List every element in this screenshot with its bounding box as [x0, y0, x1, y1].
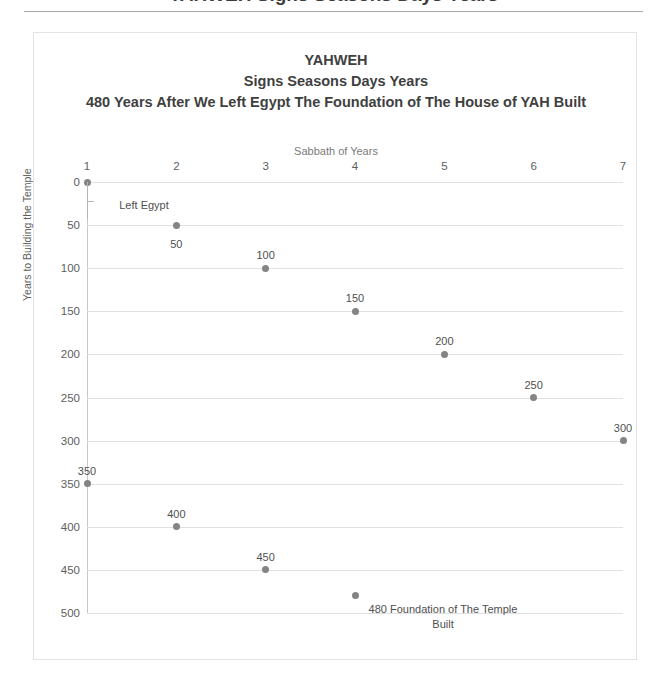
y-tick-label: 250: [61, 392, 80, 404]
x-tick-label: 2: [173, 160, 179, 172]
data-point[interactable]: [84, 480, 91, 487]
gridline: [87, 527, 623, 528]
y-tick-label: 50: [67, 219, 80, 231]
data-point[interactable]: [352, 592, 359, 599]
data-point-label: 200: [435, 335, 453, 347]
x-tick-label: 3: [262, 160, 268, 172]
data-point-label: 450: [256, 551, 274, 563]
y-tick-label: 200: [61, 348, 80, 360]
data-point-label: 100: [256, 249, 274, 261]
data-point-label: Left Egypt: [119, 199, 169, 211]
data-point-label: 400: [167, 508, 185, 520]
y-axis-title: Years to Building the Temple: [21, 168, 33, 301]
data-point-label: 150: [346, 292, 364, 304]
y-tick-label: 150: [61, 305, 80, 317]
gridline: [87, 398, 623, 399]
x-tick-label: 1: [84, 160, 90, 172]
chart-frame: YAHWEH Signs Seasons Days Years 480 Year…: [33, 32, 637, 660]
gridline: [87, 225, 623, 226]
plot-area: 0501001502002503003504004505001234567Lef…: [87, 182, 623, 613]
x-tick-label: 7: [620, 160, 626, 172]
y-tick-label: 450: [61, 564, 80, 576]
chart-title-line-2: Signs Seasons Days Years: [84, 71, 588, 92]
gridline: [87, 484, 623, 485]
gridline: [87, 613, 623, 614]
gridline: [87, 354, 623, 355]
y-tick-label: 500: [61, 607, 80, 619]
gridline: [87, 182, 623, 183]
chart-title-line-3: 480 Years After We Left Egypt The Founda…: [84, 92, 588, 113]
x-axis-title: Sabbath of Years: [34, 145, 638, 157]
data-point-label: 300: [614, 422, 632, 434]
chart-title: YAHWEH Signs Seasons Days Years 480 Year…: [84, 50, 588, 113]
data-point[interactable]: [262, 566, 269, 573]
y-tick-label: 300: [61, 435, 80, 447]
gridline: [87, 268, 623, 269]
y-tick-label: 100: [61, 262, 80, 274]
horizontal-rule: [24, 11, 643, 12]
chart-title-line-1: YAHWEH: [84, 50, 588, 71]
y-tick-label: 400: [61, 521, 80, 533]
cropped-page-heading: YAHWEH Signs Seasons Days Years: [0, 0, 667, 8]
x-tick-label: 6: [530, 160, 536, 172]
data-point[interactable]: [173, 222, 180, 229]
data-point[interactable]: [352, 308, 359, 315]
x-tick-label: 4: [352, 160, 358, 172]
gridline: [87, 570, 623, 571]
data-point[interactable]: [262, 265, 269, 272]
gridline: [87, 441, 623, 442]
data-point-label: 480 Foundation of The Temple Built: [363, 602, 523, 632]
data-point-label: 250: [524, 379, 542, 391]
data-point[interactable]: [620, 437, 627, 444]
y-tick-label: 350: [61, 478, 80, 490]
data-point-label: 50: [170, 238, 182, 250]
x-tick-label: 5: [441, 160, 447, 172]
annotation-leader-tick: [87, 201, 94, 202]
data-point[interactable]: [530, 394, 537, 401]
y-tick-label: 0: [74, 176, 80, 188]
data-point[interactable]: [173, 523, 180, 530]
data-point-label: 350: [78, 465, 96, 477]
data-point[interactable]: [441, 351, 448, 358]
